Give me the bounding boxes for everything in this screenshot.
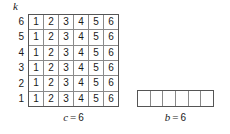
grid-cell: 5 xyxy=(89,15,104,29)
grid-cell: 4 xyxy=(74,15,89,29)
grid-cell: 3 xyxy=(59,61,74,75)
strip-caption-value: 6 xyxy=(181,112,187,123)
grid-cell: 6 xyxy=(104,15,118,29)
strip-caption: b=6 xyxy=(137,111,214,124)
grid-cell: 2 xyxy=(44,30,59,44)
grid-cell: 4 xyxy=(74,61,89,75)
axis-label-k: k xyxy=(13,1,18,12)
matrix-caption-operator: = xyxy=(68,111,78,123)
row-label: 5 xyxy=(10,30,26,46)
matrix-caption: c=6 xyxy=(28,111,119,124)
grid-cell: 6 xyxy=(104,92,118,106)
grid-cell: 5 xyxy=(89,92,104,106)
matrix-grid: 1 2 3 4 5 6 1 2 3 4 5 6 1 2 3 4 5 6 1 2 … xyxy=(28,14,119,107)
grid-cell: 1 xyxy=(29,92,44,106)
table-row: 1 2 3 4 5 6 xyxy=(29,30,118,45)
strip-cell xyxy=(151,91,164,106)
table-row: 1 2 3 4 5 6 xyxy=(29,61,118,76)
grid-cell: 5 xyxy=(89,46,104,60)
grid-cell: 3 xyxy=(59,92,74,106)
grid-cell: 2 xyxy=(44,46,59,60)
grid-cell: 3 xyxy=(59,15,74,29)
row-label: 4 xyxy=(10,45,26,61)
matrix-caption-value: 6 xyxy=(78,112,84,123)
grid-cell: 4 xyxy=(74,76,89,90)
grid-cell: 1 xyxy=(29,76,44,90)
table-row: 1 2 3 4 5 6 xyxy=(29,46,118,61)
grid-cell: 6 xyxy=(104,30,118,44)
strip-cell xyxy=(189,91,202,106)
table-row: 1 2 3 4 5 6 xyxy=(29,15,118,30)
row-label-column: 6 5 4 3 2 1 xyxy=(10,14,26,107)
strip-grid xyxy=(137,90,214,107)
grid-cell: 6 xyxy=(104,61,118,75)
grid-cell: 1 xyxy=(29,15,44,29)
row-label: 6 xyxy=(10,14,26,30)
grid-cell: 4 xyxy=(74,46,89,60)
grid-cell: 3 xyxy=(59,76,74,90)
grid-cell: 2 xyxy=(44,61,59,75)
figure-container: k 6 5 4 3 2 1 1 2 3 4 5 6 1 2 3 4 5 6 1 … xyxy=(0,0,230,134)
row-label: 1 xyxy=(10,92,26,108)
grid-cell: 5 xyxy=(89,30,104,44)
strip-cell xyxy=(176,91,189,106)
grid-cell: 6 xyxy=(104,46,118,60)
grid-cell: 3 xyxy=(59,46,74,60)
grid-cell: 1 xyxy=(29,61,44,75)
grid-cell: 5 xyxy=(89,76,104,90)
row-label: 2 xyxy=(10,76,26,92)
grid-cell: 1 xyxy=(29,46,44,60)
row-label: 3 xyxy=(10,61,26,77)
grid-cell: 4 xyxy=(74,92,89,106)
grid-cell: 5 xyxy=(89,61,104,75)
strip-caption-operator: = xyxy=(170,111,180,123)
grid-cell: 2 xyxy=(44,15,59,29)
grid-cell: 2 xyxy=(44,76,59,90)
grid-cell: 3 xyxy=(59,30,74,44)
grid-cell: 6 xyxy=(104,76,118,90)
table-row: 1 2 3 4 5 6 xyxy=(29,92,118,106)
strip-cell xyxy=(163,91,176,106)
grid-cell: 4 xyxy=(74,30,89,44)
strip-cell xyxy=(138,91,151,106)
grid-cell: 2 xyxy=(44,92,59,106)
strip-cell xyxy=(201,91,213,106)
grid-cell: 1 xyxy=(29,30,44,44)
table-row: 1 2 3 4 5 6 xyxy=(29,76,118,91)
